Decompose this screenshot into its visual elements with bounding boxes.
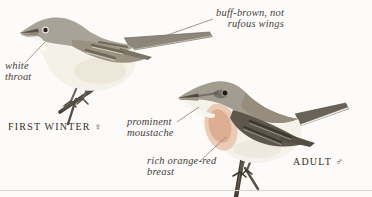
caption-adult-male: ADULT ♂ <box>293 156 344 167</box>
first-winter-female-bird <box>20 18 213 124</box>
field-guide-plate: buff-brown, not rufous wings white throa… <box>0 0 372 197</box>
annotation-rich-orange-red-breast: rich orange-red breast <box>147 155 216 177</box>
annotation-buff-brown-wings: buff-brown, not rufous wings <box>198 7 284 29</box>
adult-male-bird <box>178 81 349 197</box>
caption-first-winter-female: FIRST WINTER ♀ <box>8 121 103 132</box>
female-bird-eye <box>42 27 49 34</box>
male-bird-tail <box>295 103 349 126</box>
leader-line-prominent-moustache <box>177 107 199 122</box>
annotation-white-throat: white throat <box>5 60 31 82</box>
annotation-prominent-moustache: prominent moustache <box>127 116 174 138</box>
